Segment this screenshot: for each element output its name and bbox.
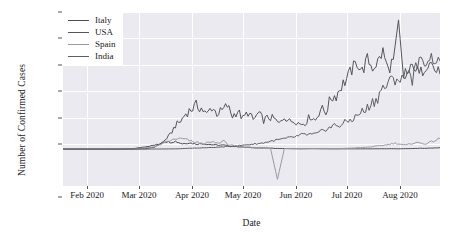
legend-swatch-usa — [68, 32, 89, 33]
legend-item-usa[interactable]: USA — [68, 27, 116, 38]
legend-item-india[interactable]: India — [68, 51, 116, 62]
y-tick-mark — [58, 117, 62, 118]
y-tick-mark — [58, 12, 62, 13]
x-axis-label: Date — [63, 218, 440, 228]
y-tick-mark — [58, 91, 62, 92]
y-axis-label: Number of Confirmed Cases — [11, 0, 33, 240]
legend-swatch-spain — [68, 44, 89, 45]
x-tick-label-aug: Aug 2020 — [365, 190, 435, 200]
legend-swatch-india — [68, 56, 89, 57]
y-tick-mark — [58, 38, 62, 39]
x-tick-mark — [347, 186, 348, 189]
legend-label-spain: Spain — [95, 39, 116, 50]
y-tick-mark — [58, 64, 62, 65]
x-tick-mark — [296, 186, 297, 189]
legend-label-usa: USA — [95, 27, 113, 38]
legend-swatch-italy — [68, 20, 89, 21]
x-tick-mark — [400, 186, 401, 189]
x-tick-mark — [192, 186, 193, 189]
x-tick-mark — [87, 186, 88, 189]
line-india — [63, 53, 440, 149]
legend-item-italy[interactable]: Italy — [68, 15, 116, 26]
legend-label-india: India — [95, 51, 114, 62]
x-tick-mark — [243, 186, 244, 189]
legend-label-italy: Italy — [95, 15, 112, 26]
covid-cases-line-chart: Number of Confirmed Cases 100k 80k 60k 4… — [0, 0, 453, 240]
y-tick-mark — [58, 144, 62, 145]
chart-legend: Italy USA Spain India — [63, 12, 123, 65]
x-tick-mark — [139, 186, 140, 189]
legend-item-spain[interactable]: Spain — [68, 39, 116, 50]
